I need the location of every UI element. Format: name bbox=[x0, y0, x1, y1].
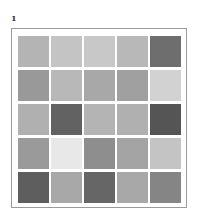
swatch-cell-r5-c4 bbox=[117, 172, 148, 203]
swatch-cell-r5-c2 bbox=[51, 172, 82, 203]
swatch-cell-r3-c3 bbox=[84, 104, 115, 135]
swatch-cell-r3-c1 bbox=[18, 104, 49, 135]
swatch-cell-r1-c5 bbox=[150, 36, 181, 67]
swatch-cell-r1-c2 bbox=[51, 36, 82, 67]
swatch-cell-r5-c1 bbox=[18, 172, 49, 203]
swatch-cell-r2-c4 bbox=[117, 70, 148, 101]
swatch-cell-r5-c3 bbox=[84, 172, 115, 203]
swatch-cell-r4-c2 bbox=[51, 138, 82, 169]
swatch-cell-r3-c5 bbox=[150, 104, 181, 135]
swatch-cell-r1-c4 bbox=[117, 36, 148, 67]
swatch-cell-r1-c1 bbox=[18, 36, 49, 67]
swatch-cell-r3-c2 bbox=[51, 104, 82, 135]
swatch-cell-r3-c4 bbox=[117, 104, 148, 135]
swatch-cell-r4-c4 bbox=[117, 138, 148, 169]
swatch-cell-r4-c1 bbox=[18, 138, 49, 169]
panel-label: 1 bbox=[11, 14, 17, 22]
swatch-cell-r2-c3 bbox=[84, 70, 115, 101]
swatch-cell-r2-c2 bbox=[51, 70, 82, 101]
grayscale-swatch-grid bbox=[18, 36, 181, 203]
swatch-cell-r2-c5 bbox=[150, 70, 181, 101]
swatch-cell-r5-c5 bbox=[150, 172, 181, 203]
swatch-cell-r4-c5 bbox=[150, 138, 181, 169]
grayscale-grid-frame bbox=[11, 28, 187, 208]
swatch-cell-r4-c3 bbox=[84, 138, 115, 169]
swatch-cell-r1-c3 bbox=[84, 36, 115, 67]
swatch-cell-r2-c1 bbox=[18, 70, 49, 101]
